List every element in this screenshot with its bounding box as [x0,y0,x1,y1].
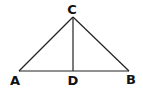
triangle-diagram: C A D B [0,0,143,92]
label-b: B [126,72,136,87]
label-c: C [67,2,77,17]
label-a: A [10,73,20,88]
label-d: D [68,73,79,88]
segment-ac [19,17,73,71]
segments [19,17,129,71]
segment-cb [73,17,129,71]
